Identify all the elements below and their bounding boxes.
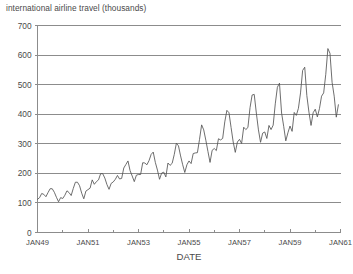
y-tick-label-300: 300	[18, 139, 32, 149]
x-tick-label-JAN57: JAN57	[228, 238, 251, 247]
chart-plot-area: 0100200300400500600700 JAN49JAN51JAN53JA…	[0, 0, 353, 274]
x-tick-label-JAN51: JAN51	[77, 238, 100, 247]
x-axis-title: DATE	[177, 251, 202, 262]
y-tick-label-500: 500	[18, 80, 32, 90]
tick-marks-group	[35, 26, 341, 233]
y-tick-label-200: 200	[18, 168, 32, 178]
y-tick-label-100: 100	[18, 198, 32, 208]
y-tick-label-700: 700	[18, 21, 32, 31]
y-axis-tick-labels: 0100200300400500600700	[18, 21, 32, 238]
x-axis-tick-labels: JAN49JAN51JAN53JAN55JAN57JAN59JAN61	[26, 238, 352, 247]
y-tick-label-400: 400	[18, 109, 32, 119]
airline-travel-chart: international airline travel (thousands)…	[0, 0, 353, 274]
x-tick-label-JAN61: JAN61	[329, 238, 352, 247]
x-tick-label-JAN49: JAN49	[26, 238, 49, 247]
y-tick-label-600: 600	[18, 50, 32, 60]
x-tick-label-JAN59: JAN59	[279, 238, 302, 247]
x-tick-label-JAN53: JAN53	[127, 238, 150, 247]
x-tick-label-JAN55: JAN55	[178, 238, 201, 247]
x-axis-title-group: DATE	[177, 251, 202, 262]
gridlines-group	[38, 26, 341, 233]
series-line-airline-travel	[38, 49, 339, 202]
y-tick-label-0: 0	[27, 228, 32, 238]
data-series-group	[38, 49, 339, 202]
